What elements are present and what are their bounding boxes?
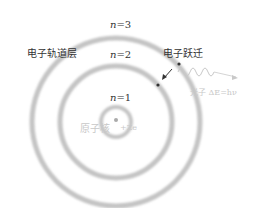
bohr-model-drawing — [0, 0, 255, 208]
nucleus-label: 原子核 — [80, 124, 110, 134]
n-value: =2 — [116, 49, 131, 60]
electron-inner — [156, 83, 159, 86]
electron-transition-label: 电子跃迁 — [163, 49, 203, 59]
photon-label: 光子 ΔE=hν — [190, 89, 237, 97]
nucleus-dot — [114, 118, 118, 122]
electron-outer — [177, 62, 180, 65]
electron-shell-label: 电子轨道层 — [27, 49, 77, 59]
nucleus-charge-label: +Ze — [120, 124, 137, 132]
transition-arrow-icon — [162, 69, 172, 80]
orbit-n2-label: n=2 — [110, 50, 131, 60]
n-value: =3 — [116, 19, 131, 30]
orbit-n3-label: n=3 — [110, 20, 131, 30]
n-value: =1 — [116, 92, 131, 103]
orbit-n1-label: n=1 — [110, 93, 131, 103]
